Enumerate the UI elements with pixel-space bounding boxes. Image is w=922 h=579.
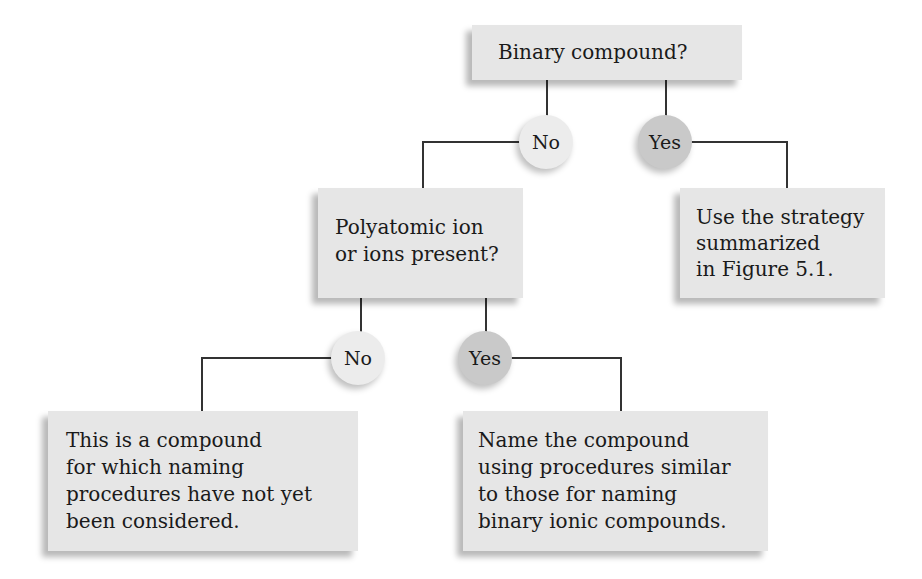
- polyatomic-question-text: Polyatomic ion or ions present?: [335, 214, 523, 268]
- connector-no-to-unconsidered-v: [201, 357, 203, 411]
- connector-yes-to-name-h: [510, 357, 621, 359]
- polyatomic-question-box: Polyatomic ion or ions present?: [318, 188, 523, 298]
- connector-binary-to-no: [546, 80, 548, 116]
- no-label-2: No: [344, 347, 372, 369]
- name-compound-text: Name the compound using procedures simil…: [478, 427, 768, 535]
- no-circle-2: No: [331, 331, 385, 385]
- connector-yes-to-strategy-h: [690, 141, 787, 143]
- connector-binary-to-yes: [665, 80, 667, 116]
- yes-label-1: Yes: [649, 131, 681, 153]
- connector-no-to-polyatomic-h: [422, 141, 522, 143]
- name-compound-box: Name the compound using procedures simil…: [463, 411, 768, 551]
- connector-polyatomic-to-no: [360, 298, 362, 332]
- yes-label-2: Yes: [469, 347, 501, 369]
- yes-circle-1: Yes: [638, 115, 692, 169]
- no-label-1: No: [532, 131, 560, 153]
- connector-yes-to-strategy-v: [786, 141, 788, 188]
- yes-circle-2: Yes: [458, 331, 512, 385]
- use-strategy-box: Use the strategy summarized in Figure 5.…: [680, 188, 885, 298]
- connector-no-to-polyatomic-v: [422, 141, 424, 188]
- connector-yes-to-name-v: [620, 357, 622, 411]
- binary-compound-question-box: Binary compound?: [472, 25, 742, 80]
- no-circle-1: No: [519, 115, 573, 169]
- binary-compound-question-text: Binary compound?: [498, 40, 742, 64]
- connector-no-to-unconsidered-h: [201, 357, 333, 359]
- not-considered-text: This is a compound for which naming proc…: [66, 427, 358, 535]
- use-strategy-text: Use the strategy summarized in Figure 5.…: [696, 204, 885, 282]
- not-considered-box: This is a compound for which naming proc…: [48, 411, 358, 551]
- connector-polyatomic-to-yes: [485, 298, 487, 332]
